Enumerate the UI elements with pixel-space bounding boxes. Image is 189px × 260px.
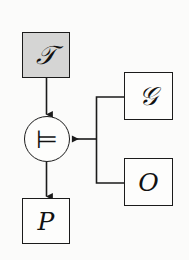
edge-goal-to-bus	[97, 97, 125, 139]
node-goal-label: 𝒢	[139, 83, 158, 109]
node-operator-entailment[interactable]: ⊨	[24, 116, 70, 162]
entailment-icon: ⊨	[36, 127, 58, 152]
node-result-label: P	[38, 209, 55, 234]
node-trace-label: 𝒯	[36, 42, 56, 68]
diagram-canvas: 𝒯 ⊨ 𝒢 O P	[0, 0, 189, 260]
node-trace[interactable]: 𝒯	[22, 32, 70, 78]
edge-observation-to-bus	[97, 139, 125, 183]
node-result[interactable]: P	[22, 198, 70, 244]
node-observation-label: O	[138, 170, 159, 195]
node-goal[interactable]: 𝒢	[124, 72, 173, 120]
node-observation[interactable]: O	[124, 158, 173, 206]
